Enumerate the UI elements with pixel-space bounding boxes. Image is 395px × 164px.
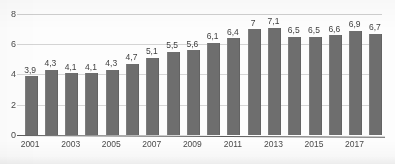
bar[interactable]: [106, 70, 119, 135]
bar-slot: 4,1: [81, 0, 101, 135]
bar[interactable]: [329, 35, 342, 135]
bar-slot: 6,5: [284, 0, 304, 135]
bar-value-label: 4,3: [39, 59, 61, 68]
bar-value-label: 6,6: [323, 25, 345, 34]
x-axis-tick-label: 2011: [218, 139, 248, 149]
x-axis-tick-label: 2015: [299, 139, 329, 149]
bar-slot: 6,6: [324, 0, 344, 135]
bar-slot: 6,1: [203, 0, 223, 135]
bar-value-label: 4,1: [60, 63, 82, 72]
bar-slot: 5,1: [142, 0, 162, 135]
bar[interactable]: [369, 34, 382, 135]
bar-value-label: 6,9: [344, 20, 366, 29]
bar[interactable]: [309, 37, 322, 135]
bar-chart: 8 6 4 2 0 3,94,34,14,14,34,75,15,55,66,1…: [0, 0, 395, 164]
bar[interactable]: [207, 43, 220, 135]
y-axis-tick-label: 8: [2, 10, 16, 19]
bar[interactable]: [146, 58, 159, 135]
bar-value-label: 7: [242, 19, 264, 28]
bar-value-label: 5,6: [181, 40, 203, 49]
bar-slot: 4,7: [121, 0, 141, 135]
bar-value-label: 5,5: [161, 41, 183, 50]
x-axis-line: [17, 135, 385, 138]
x-axis-tick-label: 2009: [177, 139, 207, 149]
bar-value-label: 4,3: [100, 59, 122, 68]
bar[interactable]: [167, 52, 180, 135]
bar-value-label: 4,7: [121, 53, 143, 62]
bar[interactable]: [268, 28, 281, 135]
bar[interactable]: [65, 73, 78, 135]
bar-value-label: 6,1: [202, 32, 224, 41]
bar[interactable]: [248, 29, 261, 135]
y-axis-tick-label: 2: [2, 101, 16, 110]
x-axis-tick-label: 2017: [340, 139, 370, 149]
bar-value-label: 6,7: [364, 23, 386, 32]
x-axis-tick-label: 2001: [15, 139, 45, 149]
bar-value-label: 6,5: [303, 26, 325, 35]
y-axis-tick-label: 0: [2, 131, 16, 140]
bar-value-label: 4,1: [80, 63, 102, 72]
bar-slot: 6,5: [304, 0, 324, 135]
bar-value-label: 6,4: [222, 28, 244, 37]
bar-slot: 4,3: [101, 0, 121, 135]
scan-edge-smudge: [0, 156, 395, 164]
bar-slot: 7,1: [263, 0, 283, 135]
bar[interactable]: [227, 38, 240, 135]
bar[interactable]: [349, 31, 362, 135]
x-axis-tick-label: 2003: [56, 139, 86, 149]
bar-slot: 5,5: [162, 0, 182, 135]
bar[interactable]: [25, 76, 38, 135]
bar[interactable]: [45, 70, 58, 135]
bar-value-label: 6,5: [283, 26, 305, 35]
x-axis-tick-label: 2007: [137, 139, 167, 149]
bar-slot: 4,3: [40, 0, 60, 135]
bar[interactable]: [85, 73, 98, 135]
bar-value-label: 7,1: [262, 17, 284, 26]
bar-slot: 5,6: [182, 0, 202, 135]
bar-slot: 6,4: [223, 0, 243, 135]
bar-value-label: 3,9: [19, 66, 41, 75]
bar[interactable]: [288, 37, 301, 135]
bar-value-label: 5,1: [141, 47, 163, 56]
x-axis-tick-label: 2013: [258, 139, 288, 149]
bar-slot: 6,9: [344, 0, 364, 135]
bar-slot: 6,7: [365, 0, 385, 135]
bar-slot: 3,9: [20, 0, 40, 135]
bar[interactable]: [126, 64, 139, 135]
bar-series: 3,94,34,14,14,34,75,15,55,66,16,477,16,5…: [20, 0, 385, 135]
bar-slot: 4,1: [61, 0, 81, 135]
bar-slot: 7: [243, 0, 263, 135]
y-axis-tick-label: 4: [2, 70, 16, 79]
y-axis-tick-label: 6: [2, 40, 16, 49]
x-axis-tick-label: 2005: [96, 139, 126, 149]
x-axis-labels: 200120032005200720092011201320152017: [20, 139, 385, 153]
bar[interactable]: [187, 50, 200, 135]
